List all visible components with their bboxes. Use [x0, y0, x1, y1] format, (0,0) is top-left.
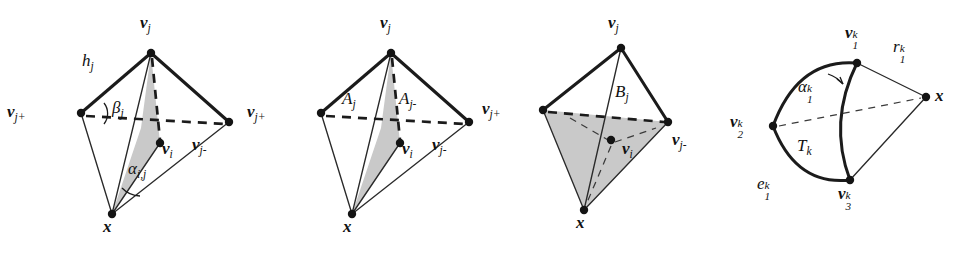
vertex-dot-left [317, 109, 325, 117]
panel-3-graphics [480, 0, 720, 253]
panel-3-label-bottom: x [576, 214, 585, 231]
vertex-dot-left [77, 109, 85, 117]
panel-2-graphics [240, 0, 480, 253]
edge-apex-right [151, 53, 229, 122]
vertex-dot-v3 [846, 176, 854, 184]
vertex-dot-v1 [853, 59, 861, 67]
vertex-dot-left [539, 106, 547, 114]
panel-2-label-right: vj- [432, 136, 447, 156]
panel-1-label-bottom: x [103, 218, 112, 235]
panel-4-label-v1: vk1 [845, 24, 863, 41]
arc-v1-v3 [841, 63, 857, 180]
figure-root: vj hj vj+ βj vj- vi αi,j x vj [0, 0, 967, 253]
panel-1-graphics [0, 0, 240, 253]
panel-4-label-x: x [935, 87, 944, 104]
panel-1-label-beta: βj [112, 99, 124, 119]
panel-4-label-e1: ek1 [757, 175, 775, 192]
vertex-dot-right [225, 118, 233, 126]
panel-2-label-apex: vj [380, 14, 391, 34]
edge-apex-left [321, 53, 391, 113]
panel-2-label-bottom: x [343, 218, 352, 235]
panel-4-graphics [720, 0, 967, 253]
vertex-dot-right [664, 118, 672, 126]
panel-2-label-left: vj+ [247, 103, 266, 123]
edge-left-bottom [81, 113, 112, 214]
panel-3-label-right: vj- [672, 131, 687, 151]
edge-v1-x [857, 63, 926, 97]
panel-4-label-Tk: Tk [797, 137, 812, 157]
vertex-dot-apex [147, 49, 155, 57]
panel-3-label-left: vj+ [482, 100, 501, 120]
vertex-dot-right [465, 118, 473, 126]
panel-1-label-right: vj- [192, 136, 207, 156]
edge-apex-right [391, 53, 469, 122]
panel-1-label-height: hj [82, 52, 94, 72]
panel-1-label-left: vj+ [7, 103, 26, 123]
angle-arc-beta [104, 103, 108, 124]
panel-4-label-r1: rk1 [893, 38, 910, 55]
panel-1-label-interior: vi [162, 140, 173, 160]
panel-4-label-v2: vk2 [730, 113, 748, 130]
edge-left-bottom [321, 113, 352, 214]
vertex-dot-apex [617, 44, 625, 52]
panel-2-label-area-right: Aj- [399, 90, 416, 110]
panel-2-label-interior: vi [402, 140, 413, 160]
vertex-dot-apex [387, 49, 395, 57]
panel-2-label-area-left: Aj [342, 90, 356, 110]
panel-3-label-apex: vj [608, 14, 619, 34]
panel-4-label-v3: vk3 [838, 185, 856, 202]
panel-3-label-interior: vi [622, 140, 633, 160]
vertex-dot-v2 [769, 122, 777, 130]
panel-1-label-apex: vj [140, 14, 151, 34]
panel-4-label-alpha1: αk1 [798, 78, 817, 95]
edge-v2-x-hidden [779, 98, 921, 126]
panel-1-label-alpha: αi,j [128, 160, 146, 180]
vertex-dot-interior [607, 136, 615, 144]
panel-3-label-face: Bj [615, 83, 629, 103]
vertex-dot-x [922, 93, 930, 101]
